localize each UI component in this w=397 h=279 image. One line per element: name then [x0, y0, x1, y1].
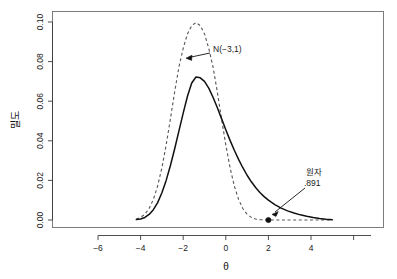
observed-value-annotation: 원자 .891	[272, 167, 322, 216]
y-axis: 0.00 0.02 0.04 0.06 0.08 0.10 밀도	[10, 13, 53, 228]
x-axis: −6 −4 −2 0 2 4 θ	[93, 236, 371, 273]
y-tick-label-3: 0.06	[35, 93, 45, 110]
y-tick-label-0: 0.00	[35, 211, 45, 228]
density-plot: 0.00 0.02 0.04 0.06 0.08 0.10 밀도	[0, 0, 397, 279]
y-tick-labels: 0.00 0.02 0.04 0.06 0.08 0.10	[35, 13, 45, 228]
x-tick-group	[98, 236, 354, 241]
x-tick-label-5: 4	[309, 243, 314, 253]
y-axis-title: 밀도	[10, 111, 21, 129]
y-tick-label-1: 0.02	[35, 172, 45, 189]
observed-value-arrow-line	[275, 188, 305, 212]
observed-value-arrow-head-icon	[272, 212, 278, 217]
chart-figure: 0.00 0.02 0.04 0.06 0.08 0.10 밀도	[0, 0, 397, 279]
x-tick-labels: −6 −4 −2 0 2 4	[93, 243, 313, 253]
normal-prior-annotation: N(−3,1)	[186, 44, 242, 60]
y-tick-group	[48, 22, 53, 220]
x-tick-label-3: 0	[223, 243, 228, 253]
observed-value-label-line2: .891	[304, 178, 321, 188]
x-tick-label-4: 2	[266, 243, 271, 253]
observed-value-label-line1: 원자	[306, 167, 322, 177]
observed-point-marker	[266, 217, 271, 222]
x-tick-label-2: −2	[178, 243, 188, 253]
y-tick-label-5: 0.10	[35, 13, 45, 30]
normal-prior-arrow-head-icon	[186, 55, 192, 60]
normal-prior-label: N(−3,1)	[213, 44, 242, 54]
x-axis-title: θ	[223, 261, 229, 272]
x-tick-label-0: −6	[93, 243, 103, 253]
y-tick-label-2: 0.04	[35, 132, 45, 149]
x-tick-label-1: −4	[136, 243, 146, 253]
y-tick-label-4: 0.08	[35, 53, 45, 70]
